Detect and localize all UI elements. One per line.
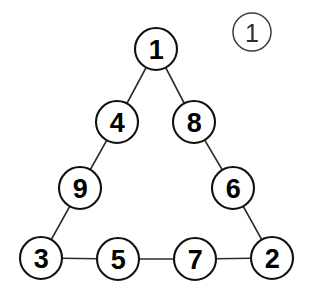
edge-1-4 xyxy=(127,67,147,104)
node-6[interactable]: 6 xyxy=(212,167,254,209)
node-9[interactable]: 9 xyxy=(59,167,101,209)
node-6-label: 6 xyxy=(226,174,241,204)
node-4[interactable]: 4 xyxy=(96,101,138,143)
node-5[interactable]: 5 xyxy=(97,238,139,280)
figure-canvas: 148963572 1 xyxy=(0,0,312,304)
circled-number-one-text: 1 xyxy=(245,19,259,47)
node-7[interactable]: 7 xyxy=(174,238,216,280)
node-4-label: 4 xyxy=(110,108,125,138)
node-9-label: 9 xyxy=(73,174,88,204)
node-7-label: 7 xyxy=(188,245,203,275)
figure-label-group: 1 xyxy=(233,13,271,51)
node-3-label: 3 xyxy=(34,244,49,274)
node-5-label: 5 xyxy=(111,245,126,275)
edge-8-6 xyxy=(204,140,222,171)
node-8-label: 8 xyxy=(187,108,202,138)
edge-1-8 xyxy=(165,67,184,104)
node-8[interactable]: 8 xyxy=(173,101,215,143)
edge-6-2 xyxy=(243,206,262,240)
triangle-graph-svg: 148963572 1 xyxy=(0,0,312,304)
edge-4-9 xyxy=(90,140,107,170)
node-2-label: 2 xyxy=(265,244,280,274)
edge-9-3 xyxy=(51,206,70,240)
node-2[interactable]: 2 xyxy=(251,237,293,279)
node-1-label: 1 xyxy=(149,35,164,65)
edges-group xyxy=(51,67,262,259)
nodes-group: 148963572 xyxy=(20,28,293,280)
node-1[interactable]: 1 xyxy=(135,28,177,70)
node-3[interactable]: 3 xyxy=(20,237,62,279)
